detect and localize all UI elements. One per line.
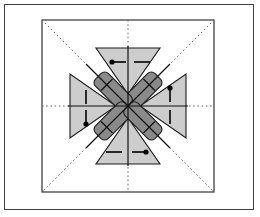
figure-stage [0, 0, 260, 217]
diagram-page [0, 0, 260, 217]
solid-axes [68, 46, 188, 166]
symmetry-diagram-svg [0, 0, 260, 217]
